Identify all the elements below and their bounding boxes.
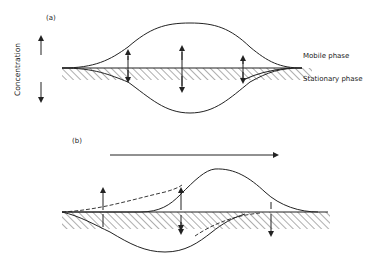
panel-b-label: (b) xyxy=(72,138,82,145)
stationary-phase-label: Stationary phase xyxy=(303,76,363,83)
diagram-svg xyxy=(0,0,383,269)
mobile-phase-dashed-b xyxy=(62,185,182,212)
y-axis-label: Concentration xyxy=(14,43,22,96)
mobile-phase-label: Mobile phase xyxy=(303,53,349,60)
panel-b xyxy=(62,155,330,252)
panel-a-label: (a) xyxy=(46,15,56,22)
chromatography-diagram: (a) Mobile phase Stationary phase (b) Co… xyxy=(0,0,383,269)
panel-a xyxy=(62,23,312,113)
mobile-phase-curve-b xyxy=(62,169,318,212)
stationary-phase-band-b xyxy=(62,212,330,229)
